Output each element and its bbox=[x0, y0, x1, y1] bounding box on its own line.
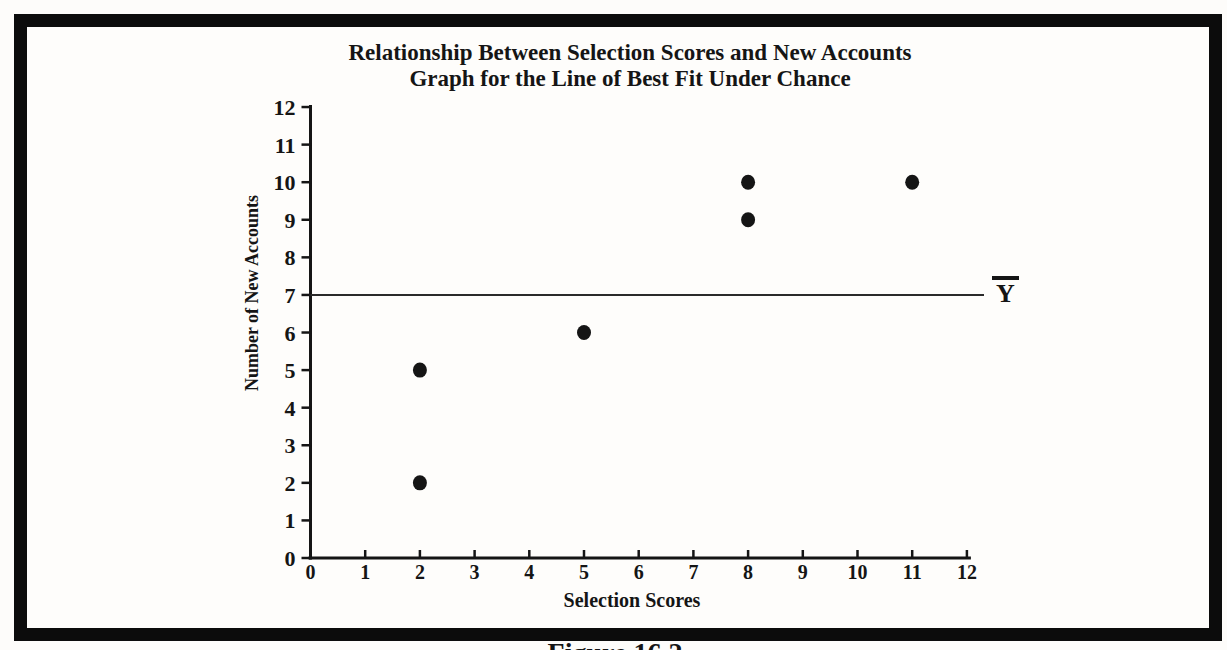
figure-caption: Figure 16.2 bbox=[450, 637, 780, 650]
mean-line-label: Y bbox=[992, 276, 1019, 307]
chart-title: Relationship Between Selection Scores an… bbox=[150, 41, 1110, 65]
x-axis-label: Selection Scores bbox=[472, 589, 792, 612]
y-bar-symbol: Y bbox=[992, 276, 1019, 307]
scanned-figure-page: Relationship Between Selection Scores an… bbox=[0, 0, 1227, 650]
chart-subtitle: Graph for the Line of Best Fit Under Cha… bbox=[150, 67, 1110, 91]
figure-border-frame bbox=[14, 14, 1222, 641]
y-axis-label: Number of New Accounts bbox=[242, 195, 263, 391]
